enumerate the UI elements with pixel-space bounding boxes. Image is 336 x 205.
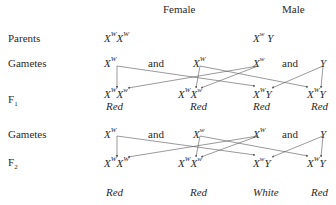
arrow-line [200, 66, 308, 87]
arrow-line [117, 66, 255, 86]
arrow-line [321, 66, 323, 88]
arrow-line [201, 66, 258, 88]
arrow-line [128, 136, 258, 157]
arrow-line [196, 136, 200, 157]
arrow-line [321, 136, 323, 157]
arrow-line [117, 136, 255, 155]
arrow-line [200, 136, 308, 156]
arrow-line [196, 66, 200, 88]
arrow-line [201, 136, 258, 157]
arrow-line [128, 66, 258, 88]
cross-arrows [0, 0, 336, 205]
